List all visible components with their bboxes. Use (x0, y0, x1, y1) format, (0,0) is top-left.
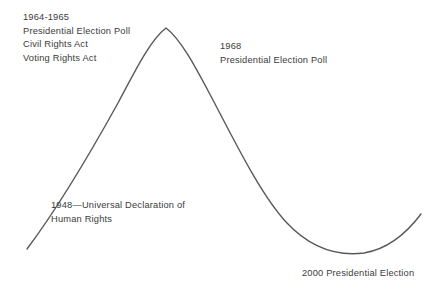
annotation-1964-1965-line-1: 1964-1965 (23, 11, 130, 25)
annotation-1968-line-1: 1968 (220, 40, 327, 54)
annotation-1964-1965-line-3: Civil Rights Act (23, 38, 130, 52)
annotation-1968: 1968 Presidential Election Poll (220, 40, 327, 67)
annotation-2000: 2000 Presidential Election (302, 267, 414, 281)
annotation-1964-1965: 1964-1965 Presidential Election Poll Civ… (23, 11, 130, 65)
annotation-1948-line-1: 1948—Universal Declaration of (51, 199, 185, 213)
diagram-canvas: 1964-1965 Presidential Election Poll Civ… (0, 0, 444, 293)
annotation-1948: 1948—Universal Declaration of Human Righ… (51, 199, 185, 226)
annotation-1968-line-2: Presidential Election Poll (220, 54, 327, 68)
annotation-1964-1965-line-4: Voting Rights Act (23, 52, 130, 66)
annotation-1964-1965-line-2: Presidential Election Poll (23, 25, 130, 39)
annotation-2000-line-1: 2000 Presidential Election (302, 267, 414, 281)
annotation-1948-line-2: Human Rights (51, 213, 185, 227)
